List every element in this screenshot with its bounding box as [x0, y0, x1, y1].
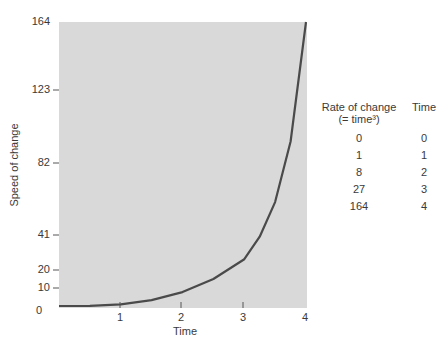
table-cell-rate: 1	[316, 149, 402, 161]
x-tick-4: 4	[295, 311, 315, 323]
y-tick-marks	[53, 90, 59, 288]
table-cell-time: 0	[406, 132, 441, 144]
y-tick-20: 20	[20, 263, 50, 275]
x-tick-3: 3	[233, 311, 253, 323]
table-cell-rate: 8	[316, 166, 402, 178]
x-tick-1: 1	[110, 311, 130, 323]
table-cell-rate: 27	[316, 183, 402, 195]
table-header-rate: Rate of change (= time³)	[316, 101, 402, 125]
y-tick-82: 82	[20, 156, 50, 168]
table-cell-time: 1	[406, 149, 441, 161]
plot-background	[59, 22, 307, 308]
table-header-time: Time	[406, 101, 441, 113]
y-axis-label: Speed of change	[8, 123, 20, 206]
y-tick-41: 41	[20, 228, 50, 240]
table-cell-rate: 0	[316, 132, 402, 144]
table-cell-time: 4	[406, 200, 441, 212]
table-header-rate-sub: (= time³)	[316, 113, 402, 125]
y-tick-164: 164	[20, 15, 50, 27]
y-tick-123: 123	[20, 83, 50, 95]
table-cell-time: 3	[406, 183, 441, 195]
x-axis-label: Time	[165, 325, 205, 337]
table-cell-rate: 164	[316, 200, 402, 212]
y-tick-0: 0	[12, 304, 42, 316]
x-tick-2: 2	[171, 311, 191, 323]
y-tick-10: 10	[20, 281, 50, 293]
table-cell-time: 2	[406, 166, 441, 178]
